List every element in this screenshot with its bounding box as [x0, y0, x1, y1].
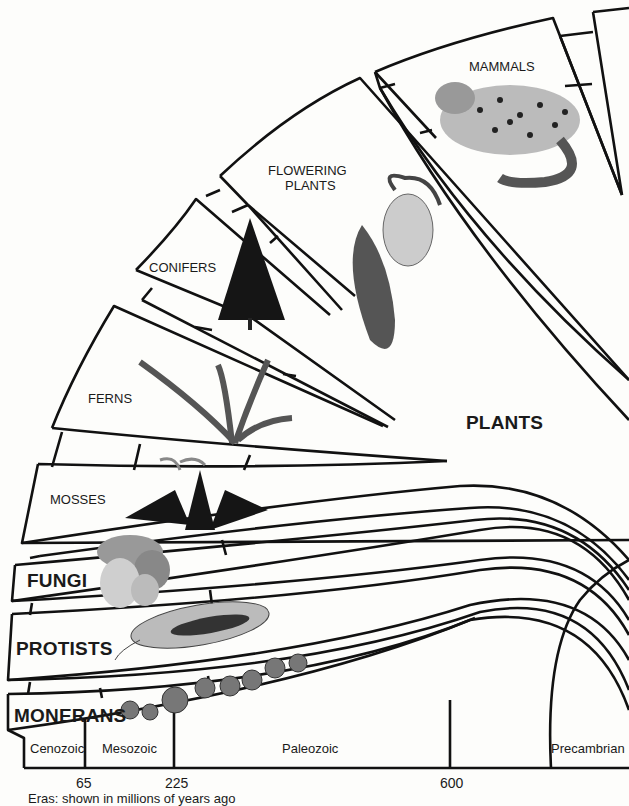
label-flowering-plants-line2: PLANTS: [285, 179, 336, 192]
label-flowering-plants-line1: FLOWERING: [268, 164, 347, 177]
era-paleozoic: Paleozoic: [282, 742, 338, 755]
era-precambrian: Precambrian: [551, 742, 625, 755]
label-fungi: FUNGI: [27, 571, 87, 590]
tick-65: 65: [76, 776, 92, 790]
label-ferns: FERNS: [88, 392, 132, 405]
fern-illustration: [140, 360, 292, 443]
era-mesozoic: Mesozoic: [102, 742, 157, 755]
label-plants: PLANTS: [466, 413, 543, 432]
era-cenozoic: Cenozoic: [30, 742, 84, 755]
moss-illustration: [125, 459, 268, 530]
label-conifers: CONIFERS: [149, 261, 216, 274]
caption: Eras: shown in millions of years ago: [28, 792, 235, 805]
label-monerans: MONERANS: [14, 706, 126, 725]
tick-600: 600: [440, 776, 463, 790]
label-mammals: MAMMALS: [469, 60, 535, 73]
label-mosses: MOSSES: [50, 493, 106, 506]
orchid-illustration: [353, 176, 440, 349]
snow-leopard-illustration: [435, 82, 580, 183]
label-protists: PROTISTS: [16, 639, 113, 658]
tick-225: 225: [165, 776, 188, 790]
mushroom-illustration: [97, 535, 170, 608]
mosses-wedge: [22, 461, 629, 543]
